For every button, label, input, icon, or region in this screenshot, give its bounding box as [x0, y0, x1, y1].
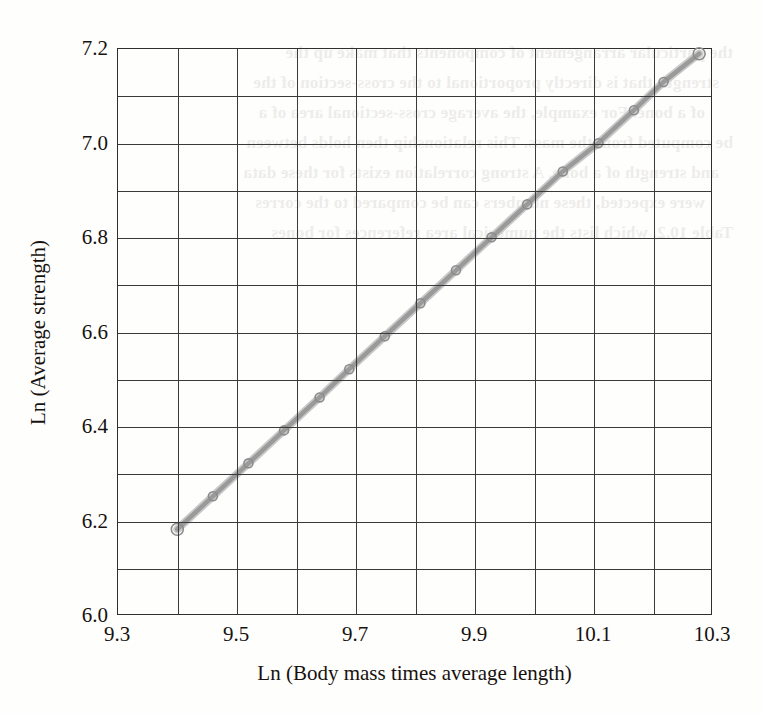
gridline-horizontal — [118, 522, 711, 523]
gridline-horizontal — [118, 569, 711, 570]
y-axis-tick-label: 6.6 — [82, 319, 108, 344]
y-axis-tick-label: 6.8 — [82, 225, 108, 250]
x-axis-tick-label: 9.7 — [342, 622, 368, 647]
gridline-vertical — [594, 49, 595, 614]
gridline-vertical — [475, 49, 476, 614]
gridline-vertical — [356, 49, 357, 614]
gridline-vertical — [178, 49, 179, 614]
gridline-vertical — [416, 49, 417, 614]
y-axis-tick-label: 7.0 — [82, 130, 108, 155]
gridline-horizontal — [118, 238, 711, 239]
gridline-horizontal — [118, 380, 711, 381]
gridline-vertical — [535, 49, 536, 614]
gridline-horizontal — [118, 144, 711, 145]
gridline-vertical — [297, 49, 298, 614]
gridline-horizontal — [118, 427, 711, 428]
x-axis-tick-label: 9.5 — [223, 622, 249, 647]
data-series-layer — [118, 49, 711, 614]
gridline-horizontal — [118, 285, 711, 286]
y-axis-tick-label: 6.2 — [82, 508, 108, 533]
y-axis-tick-labels: 6.06.26.46.66.87.07.2 — [46, 0, 108, 714]
x-axis-tick-label: 10.1 — [575, 622, 612, 647]
gridline-horizontal — [118, 474, 711, 475]
y-axis-tick-label: 7.2 — [82, 36, 108, 61]
gridline-vertical — [237, 49, 238, 614]
x-axis-title: Ln (Body mass times average length) — [117, 661, 712, 686]
gridline-horizontal — [118, 191, 711, 192]
gridline-vertical — [654, 49, 655, 614]
y-axis-tick-label: 6.4 — [82, 414, 108, 439]
x-axis-tick-label: 10.3 — [694, 622, 731, 647]
gridline-horizontal — [118, 96, 711, 97]
y-axis-title: Ln (Average strength) — [26, 183, 51, 483]
figure-page: the particular arrangement of components… — [0, 0, 763, 714]
x-axis-tick-labels: 9.39.59.79.910.110.3 — [0, 622, 763, 656]
plot-area — [117, 48, 712, 615]
gridline-horizontal — [118, 333, 711, 334]
x-axis-tick-label: 9.9 — [461, 622, 487, 647]
x-axis-tick-label: 9.3 — [104, 622, 130, 647]
